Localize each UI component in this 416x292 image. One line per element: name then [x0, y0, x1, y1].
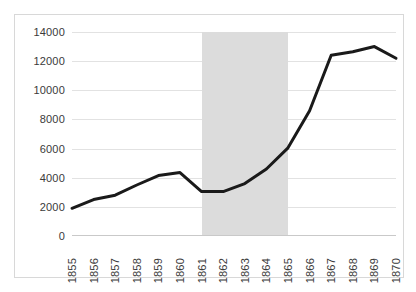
y-axis-tick-label: 4000 [40, 172, 65, 184]
y-axis-tick-label: 10000 [33, 84, 65, 96]
chart-container: 02000400060008000100001200014000 1855185… [14, 14, 404, 278]
x-axis-tick-label: 1862 [217, 258, 229, 283]
x-axis-tick-label: 1856 [88, 258, 100, 283]
y-axis-tick-label: 14000 [33, 26, 65, 38]
line-series [72, 32, 396, 236]
chart-plot-wrapper: 02000400060008000100001200014000 1855185… [15, 15, 403, 277]
y-axis-tick-label: 8000 [40, 113, 65, 125]
y-axis-tick-label: 2000 [40, 201, 65, 213]
y-axis-tick-label: 12000 [33, 55, 65, 67]
x-axis-tick-label: 1859 [152, 258, 164, 283]
x-axis-tick-label: 1866 [304, 258, 316, 283]
x-axis-tick-label: 1868 [347, 258, 359, 283]
y-axis-tick-label: 0 [59, 230, 65, 242]
y-axis-labels: 02000400060008000100001200014000 [15, 32, 65, 236]
x-axis-tick-label: 1863 [239, 258, 251, 283]
x-axis-tick-label: 1858 [131, 258, 143, 283]
x-axis-tick-label: 1869 [368, 258, 380, 283]
x-axis-tick-label: 1870 [390, 258, 402, 283]
x-axis-tick-label: 1855 [66, 258, 78, 283]
x-axis-labels: 1855185618571858185918601861186218631864… [72, 239, 396, 285]
x-axis-tick-label: 1857 [109, 258, 121, 283]
x-axis-tick-label: 1861 [196, 258, 208, 283]
y-axis-tick-label: 6000 [40, 143, 65, 155]
x-axis-tick-label: 1860 [174, 258, 186, 283]
series-line [72, 47, 396, 209]
x-axis-tick-label: 1867 [325, 258, 337, 283]
x-axis-tick-label: 1864 [260, 258, 272, 283]
plot-area [72, 32, 396, 236]
x-axis-tick-label: 1865 [282, 258, 294, 283]
